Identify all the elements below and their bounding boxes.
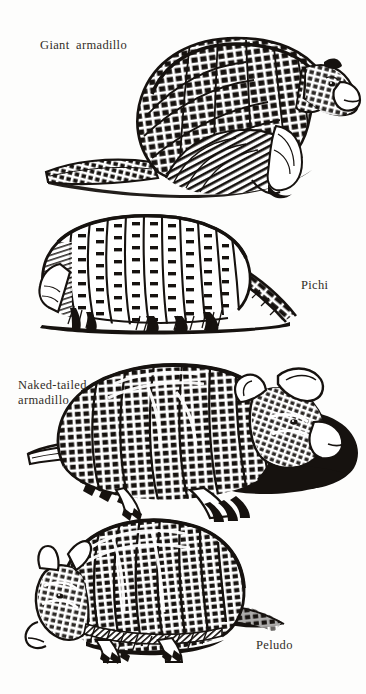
label-peludo: Peludo xyxy=(256,638,293,653)
illustration-plate: Giant armadillo xyxy=(0,0,366,694)
figure-peludo xyxy=(16,512,288,664)
label-naked-tailed-armadillo: Naked-tailed armadillo xyxy=(18,378,87,408)
label-pichi: Pichi xyxy=(301,278,328,293)
label-giant-armadillo: Giant armadillo xyxy=(40,38,127,53)
figure-pichi xyxy=(32,212,304,336)
pichi-drawing xyxy=(32,212,304,336)
peludo-drawing xyxy=(16,512,288,664)
